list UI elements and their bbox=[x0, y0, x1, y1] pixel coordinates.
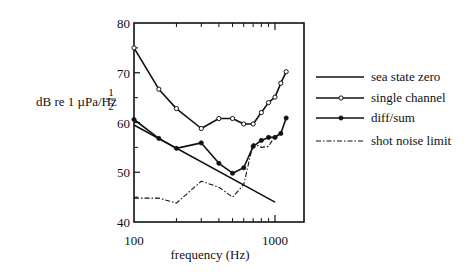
data-point-single-channel bbox=[273, 95, 277, 99]
y-axis-label-exponent-denominator: 2 bbox=[108, 100, 114, 112]
y-tick-label: 40 bbox=[117, 215, 130, 230]
legend-item-diff-sum: diff/sum bbox=[316, 110, 415, 125]
y-axis-label-text: dB re 1 µPa/Hz bbox=[36, 94, 117, 109]
data-point-single-channel bbox=[174, 106, 178, 110]
x-axis-label: frequency (Hz) bbox=[170, 247, 249, 262]
legend-item-sea-state-zero: sea state zero bbox=[316, 69, 440, 84]
legend: sea state zerosingle channeldiff/sumshot… bbox=[316, 69, 452, 148]
legend-label: shot noise limit bbox=[371, 133, 452, 148]
data-point-diff-sum bbox=[199, 141, 203, 145]
legend-label: sea state zero bbox=[371, 69, 440, 84]
y-axis-label: dB re 1 µPa/Hz 1 2 bbox=[36, 86, 117, 112]
data-point-single-channel bbox=[157, 87, 161, 91]
legend-swatch-marker bbox=[339, 116, 343, 120]
legend-label: single channel bbox=[371, 90, 446, 105]
data-point-diff-sum bbox=[279, 131, 283, 135]
legend-label: diff/sum bbox=[371, 110, 415, 125]
data-point-single-channel bbox=[259, 110, 263, 114]
series-line-diff-sum bbox=[134, 118, 286, 173]
data-point-single-channel bbox=[217, 116, 221, 120]
data-point-single-channel bbox=[242, 122, 246, 126]
y-tick-label: 50 bbox=[117, 165, 130, 180]
data-point-diff-sum bbox=[132, 117, 136, 121]
series-single-channel bbox=[132, 46, 288, 131]
y-tick-label: 80 bbox=[117, 16, 130, 31]
x-tick-label: 100 bbox=[124, 233, 144, 248]
data-point-single-channel bbox=[132, 46, 136, 50]
data-point-single-channel bbox=[199, 126, 203, 130]
x-tick-label: 1000 bbox=[262, 233, 288, 248]
data-point-single-channel bbox=[251, 122, 255, 126]
data-point-single-channel bbox=[266, 101, 270, 105]
data-point-diff-sum bbox=[242, 166, 246, 170]
data-point-single-channel bbox=[230, 116, 234, 120]
data-point-diff-sum bbox=[266, 135, 270, 139]
data-point-single-channel bbox=[284, 70, 288, 74]
data-point-diff-sum bbox=[230, 171, 234, 175]
legend-item-shot-noise-limit: shot noise limit bbox=[316, 133, 452, 148]
legend-swatch-marker bbox=[339, 96, 343, 100]
y-tick-label: 70 bbox=[117, 66, 130, 81]
data-point-diff-sum bbox=[217, 161, 221, 165]
chart: 10010004050607080 frequency (Hz) dB re 1… bbox=[0, 0, 474, 279]
y-axis-label-exponent-numerator: 1 bbox=[108, 86, 114, 98]
plot-frame bbox=[134, 23, 304, 222]
data-point-single-channel bbox=[279, 81, 283, 85]
data-point-diff-sum bbox=[157, 136, 161, 140]
legend-item-single-channel: single channel bbox=[316, 90, 446, 105]
data-point-diff-sum bbox=[174, 146, 178, 150]
data-point-diff-sum bbox=[284, 116, 288, 120]
data-point-diff-sum bbox=[259, 138, 263, 142]
y-tick-label: 60 bbox=[117, 116, 130, 131]
